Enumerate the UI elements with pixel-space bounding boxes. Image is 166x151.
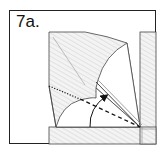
- origami-diagram: [0, 0, 166, 151]
- bottom-strip: [49, 127, 156, 144]
